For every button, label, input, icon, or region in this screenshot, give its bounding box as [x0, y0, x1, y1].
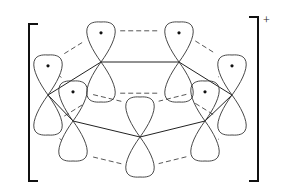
p-orbital-c7: [34, 55, 62, 135]
charge-label: +: [263, 13, 270, 27]
pi-overlap-lower: [64, 103, 84, 116]
sigma-bond: [48, 62, 101, 95]
lower-lobe: [218, 95, 246, 135]
upper-lobe: [87, 22, 115, 62]
electron-dot: [203, 90, 206, 93]
pi-overlap-upper: [159, 94, 187, 101]
pi-overlap-upper: [218, 76, 219, 77]
upper-lobe: [126, 97, 154, 137]
electron-dot: [177, 31, 180, 34]
p-orbital-c4: [191, 81, 219, 161]
lower-lobe: [34, 95, 62, 135]
sigma-bond: [73, 121, 140, 137]
sigma-bond: [140, 121, 205, 137]
electron-dot: [71, 90, 74, 93]
p-orbital-c3: [218, 55, 246, 135]
tropylium-orbital-diagram: +: [0, 0, 288, 191]
electron-dot: [99, 31, 102, 34]
left-bracket: [29, 24, 38, 181]
p-orbitals: [34, 22, 246, 177]
p-orbital-c6: [59, 81, 87, 161]
p-orbital-c5: [126, 97, 154, 177]
pi-overlap-lower: [159, 157, 187, 164]
pi-overlap-upper: [64, 41, 84, 54]
electron-dot: [230, 64, 233, 67]
upper-lobe: [59, 81, 87, 121]
sigma-bond: [205, 95, 232, 121]
electron-dot: [46, 64, 49, 67]
lower-lobe: [59, 121, 87, 161]
lower-lobe: [191, 121, 219, 161]
pi-overlap-lower: [92, 157, 122, 164]
upper-lobe: [191, 81, 219, 121]
upper-lobe: [165, 22, 193, 62]
pi-overlap-lower: [218, 139, 219, 140]
pi-overlap-upper: [195, 41, 215, 54]
sigma-bond: [179, 62, 232, 95]
pi-overlap-lower: [60, 138, 62, 140]
pi-overlap-upper: [92, 94, 122, 101]
right-bracket: [249, 17, 258, 181]
lower-lobe: [126, 137, 154, 177]
pi-overlap-upper: [60, 76, 62, 78]
sigma-bond-framework: [48, 62, 232, 137]
